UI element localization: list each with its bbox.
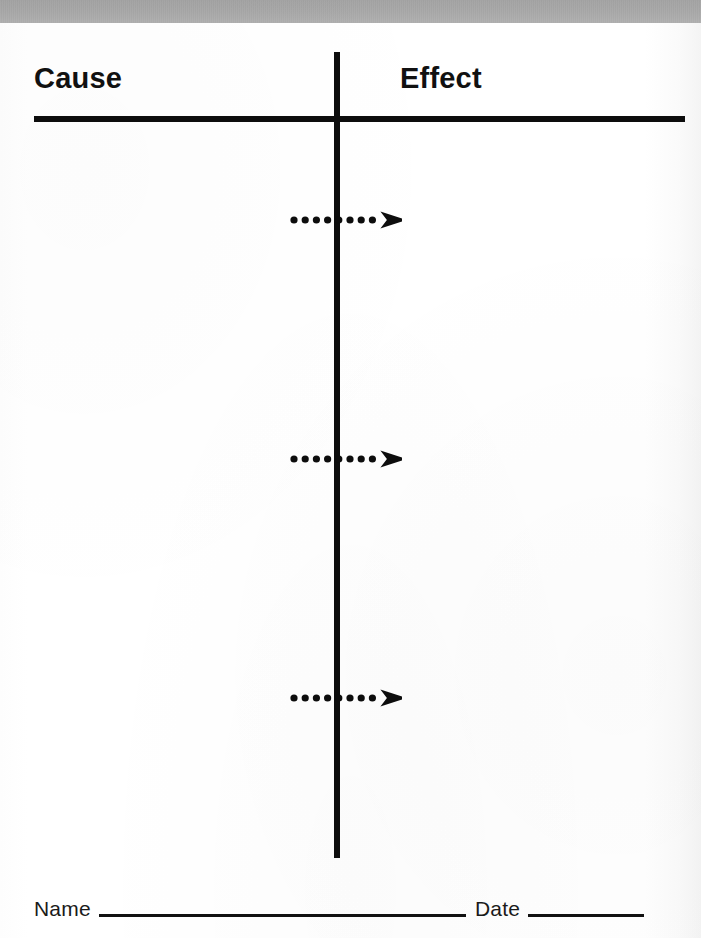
dotted-arrow-3 [290, 686, 402, 710]
cause-column-heading: Cause [34, 64, 122, 93]
worksheet-page: Cause & Effect Chart Cause Effect Name D… [0, 0, 701, 938]
header-band: Cause & Effect Chart [0, 0, 701, 23]
date-field[interactable]: Date [475, 898, 644, 919]
name-field-label: Name [34, 898, 91, 919]
name-write-in-line[interactable] [99, 914, 466, 917]
horizontal-divider-rule [34, 116, 685, 122]
date-field-label: Date [475, 898, 520, 919]
page-title: Cause & Effect Chart [36, 0, 354, 5]
date-write-in-line[interactable] [528, 914, 644, 917]
dotted-arrow-2 [290, 447, 402, 471]
dotted-arrow-1 [290, 208, 402, 232]
effect-column-heading: Effect [400, 64, 482, 93]
name-field[interactable]: Name [34, 898, 466, 919]
